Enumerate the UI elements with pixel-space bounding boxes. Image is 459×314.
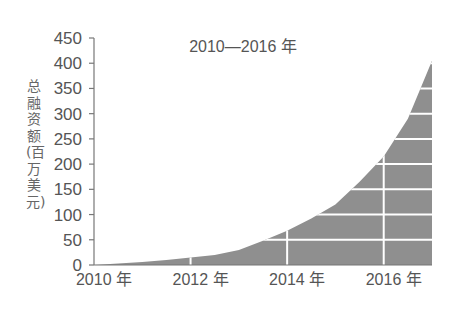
y-tick-label: 400 <box>54 54 82 73</box>
y-tick-label: 150 <box>54 180 82 199</box>
chart-title: 2010—2016 年 <box>189 38 297 55</box>
x-tick-label: 2010 年 <box>76 271 132 288</box>
y-tick-labels: 050100150200250300350400450 <box>54 29 82 275</box>
x-tick-label: 2016 年 <box>366 271 422 288</box>
y-tick-label: 250 <box>54 130 82 149</box>
y-tick-label: 100 <box>54 206 82 225</box>
x-tick-label: 2012 年 <box>173 271 229 288</box>
funding-area <box>94 61 432 265</box>
y-tick-label: 50 <box>63 231 82 250</box>
y-tick-label: 200 <box>54 155 82 174</box>
y-tick-label: 300 <box>54 105 82 124</box>
y-tick-label: 350 <box>54 79 82 98</box>
x-tick-labels: 2010 年2012 年2014 年2016 年 <box>76 271 422 288</box>
y-tick-label: 450 <box>54 29 82 48</box>
x-tick-label: 2014 年 <box>269 271 325 288</box>
y-axis-label: 总融资额(百万美元) <box>26 78 42 210</box>
area-chart: 050100150200250300350400450 2010 年2012 年… <box>0 0 459 314</box>
